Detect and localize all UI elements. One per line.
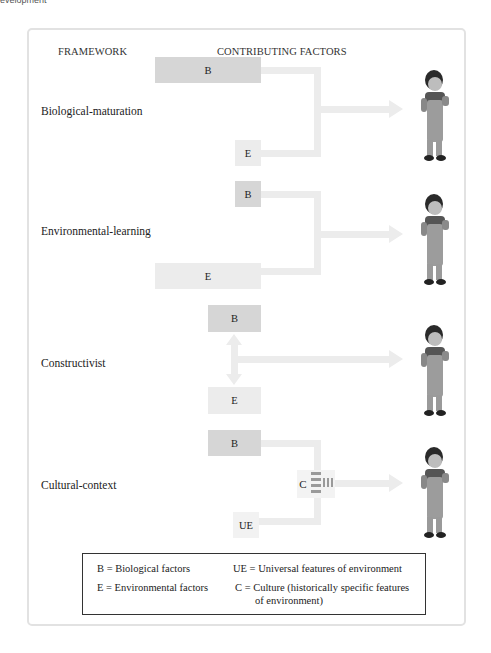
cropped-header-text: evelopment	[0, 0, 47, 5]
bidirectional-shaft	[231, 344, 238, 376]
child-figure-icon	[418, 192, 452, 288]
child-figure-icon	[418, 323, 452, 419]
factor-box-b: B	[155, 57, 261, 83]
culture-label: C	[297, 476, 309, 492]
legend-item-b: B = Biological factors	[97, 563, 190, 575]
arrow-head-icon	[389, 100, 403, 118]
factor-box-e: E	[208, 387, 261, 414]
factors-header: CONTRIBUTING FACTORS	[217, 46, 347, 57]
factor-box-b: B	[235, 181, 261, 207]
arrow-head-icon	[389, 350, 403, 368]
child-figure-icon	[418, 68, 452, 164]
legend-box: B = Biological factors E = Environmental…	[82, 553, 426, 615]
arrow-shaft	[238, 356, 389, 363]
connector-e	[261, 150, 321, 157]
arrow-down-icon	[226, 374, 242, 385]
factor-box-b: B	[208, 305, 261, 332]
factor-box-ue: UE	[233, 512, 259, 538]
factor-box-e: E	[235, 140, 261, 166]
framework-label-cultural-context: Cultural-context	[41, 479, 116, 491]
legend-item-c: C = Culture (historically specific featu…	[235, 582, 409, 594]
culture-stripe	[311, 484, 321, 487]
culture-stripe	[311, 490, 321, 493]
arrow-up-icon	[226, 334, 242, 345]
legend-item-ue: UE = Universal features of environment	[233, 563, 402, 575]
culture-stripe	[331, 478, 333, 487]
connector-b	[261, 191, 321, 198]
legend-item-e: E = Environmental factors	[97, 582, 208, 594]
culture-stripe	[323, 478, 325, 487]
arrow-head-icon	[389, 225, 403, 243]
framework-label-biological-maturation: Biological-maturation	[41, 105, 143, 117]
connector-vertical	[314, 67, 321, 157]
connector-b	[261, 67, 321, 74]
connector-e	[261, 268, 321, 275]
arrow-shaft	[321, 231, 389, 238]
arrow-shaft	[321, 106, 389, 113]
culture-stripe	[311, 478, 321, 481]
child-figure-icon	[418, 445, 452, 541]
framework-header: FRAMEWORK	[58, 46, 127, 57]
connector-vertical	[314, 191, 321, 275]
factor-box-b: B	[208, 430, 261, 456]
factor-box-e: E	[155, 263, 261, 289]
culture-stripe	[311, 472, 321, 475]
framework-label-constructivist: Constructivist	[41, 357, 106, 369]
connector-b	[261, 440, 321, 447]
connector-ue	[259, 518, 321, 525]
arrow-shaft	[335, 480, 389, 487]
legend-item-c-cont: of environment)	[255, 595, 323, 607]
framework-label-environmental-learning: Environmental-learning	[41, 225, 151, 237]
culture-stripe	[327, 478, 329, 487]
arrow-head-icon	[389, 474, 403, 492]
